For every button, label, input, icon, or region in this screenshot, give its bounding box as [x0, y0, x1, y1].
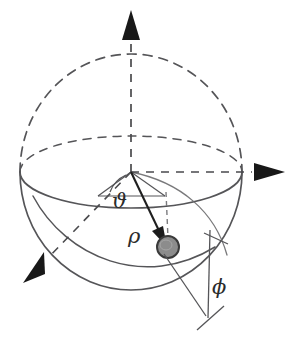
- x-axis-line: [48, 172, 131, 258]
- azimuth-leader-right: [208, 230, 210, 318]
- figure-canvas: ϑ ρ ϕ: [0, 0, 292, 343]
- y-axis-arrowhead-icon: [254, 163, 285, 181]
- polar-angle-label: ϑ: [112, 189, 127, 213]
- equator-front-arc: [20, 172, 242, 208]
- projection-drop-line: [166, 192, 168, 238]
- azimuth-leader-left: [164, 254, 206, 316]
- radius-label: ρ: [127, 224, 141, 248]
- spherical-coordinates-figure: ϑ ρ ϕ: [0, 0, 292, 343]
- azimuth-angle-label: ϕ: [212, 275, 226, 299]
- z-axis-arrowhead-icon: [122, 10, 140, 40]
- x-axis-arrowhead-icon: [23, 252, 45, 283]
- axes-group: [23, 10, 285, 283]
